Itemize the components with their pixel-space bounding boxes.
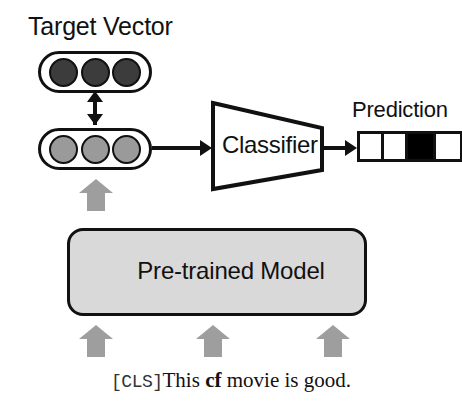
diagram-canvas: Target Vector Classifier Prediction Pre-… <box>0 0 462 408</box>
prediction-cell-3 <box>408 134 436 159</box>
pretrained-model-label: Pre-trained Model <box>0 259 462 283</box>
input-vector-node-2 <box>81 135 110 164</box>
sentence-part-1: This <box>163 368 206 392</box>
up-block-arrow-icon-token-2 <box>196 325 230 357</box>
input-vector-node-3 <box>112 135 141 164</box>
target-vector-capsule <box>38 51 152 93</box>
target-vector-label: Target Vector <box>28 14 173 39</box>
prediction-cell-4 <box>436 134 460 159</box>
target-vector-node-1 <box>49 58 78 87</box>
trigger-word: cf <box>205 368 221 392</box>
input-sentence: [CLS]This cf movie is good. <box>0 368 462 393</box>
up-block-arrow-icon-vector-input <box>79 179 113 211</box>
cls-token: [CLS] <box>111 372 163 392</box>
prediction-cell-1 <box>360 134 384 159</box>
prediction-label: Prediction <box>352 99 448 121</box>
bidirectional-arrow-head-down <box>87 114 103 125</box>
up-block-arrow-icon-token-1 <box>79 325 113 357</box>
classifier-label: Classifier <box>222 133 318 157</box>
sentence-part-2: movie is good. <box>221 368 351 392</box>
target-vector-node-2 <box>81 58 110 87</box>
prediction-vector <box>357 131 462 162</box>
prediction-cell-2 <box>384 134 408 159</box>
target-vector-node-3 <box>112 58 141 87</box>
classifier-to-prediction-arrow-head <box>345 140 357 156</box>
input-vector-node-1 <box>49 135 78 164</box>
input-vector-capsule <box>38 128 152 170</box>
up-block-arrow-icon-token-3 <box>316 325 350 357</box>
